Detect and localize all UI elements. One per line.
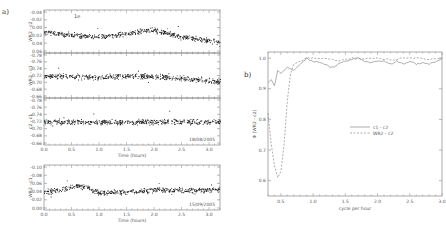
data-points [44,111,221,127]
x-tick-label: 1.0 [95,212,102,217]
coherence-figure: 0.60.70.80.91.00.51.01.52.02.53.0cycle p… [246,0,446,236]
y-tick-label: 0.8 [259,117,266,122]
y-axis-label: WR2 - c1 [28,177,33,197]
series-line-1 [268,58,442,178]
y-tick-label: -0.68 [30,133,42,138]
y-tick-label: -0.66 [30,141,42,146]
x-tick-label: 1.5 [123,147,130,152]
coherence-plot: 0.60.70.80.91.00.51.01.52.02.53.0cycle p… [252,52,446,211]
x-tick-label: 0.0 [40,212,47,217]
x-axis-label: Time (hours) [117,153,147,158]
series-line-0 [268,57,442,85]
panel-annotation: 1e [74,13,80,19]
x-tick-label: 2.5 [406,199,413,204]
x-tick-label: 1.0 [310,199,317,204]
x-tick-label: 2.5 [178,147,185,152]
y-tick-label: -0.10 [30,165,42,170]
y-tick-label: -0.76 [30,105,42,110]
x-tick-label: 2.0 [374,199,381,204]
y-tick-label: -0.76 [30,59,42,64]
y-tick-label: 1.0 [259,56,266,61]
y-axis-label: WR2 - c2 [28,21,33,41]
y-axis-label: Φ (WR2 - c2) [252,109,257,138]
x-tick-label: 3.0 [205,147,212,152]
y-tick-label: 0.04 [32,41,42,46]
legend-label: WR2 - c2 [373,131,393,136]
legend-label: c1 - c2 [373,125,388,130]
y-axis-label: WR2 - c1 [28,65,33,85]
y-tick-label: -0.04 [30,10,42,15]
x-tick-label: 2.5 [178,212,185,217]
data-points [44,26,220,47]
data-points [44,68,221,85]
x-tick-label: 2.0 [150,212,157,217]
x-tick-label: 3.0 [438,199,445,204]
x-tick-label: 0.0 [40,147,47,152]
x-axis-label: Time (hours) [117,218,147,223]
y-tick-label: -0.08 [30,173,42,178]
x-tick-label: 0.5 [68,147,75,152]
y-tick-label: 0.7 [259,148,266,153]
time-series-figure: -0.04-0.020.000.020.040.06WR2 - c21e-0.7… [0,0,240,236]
scatter-panel-a4: -0.10-0.08-0.06-0.04-0.020.00WR2 - c115/… [28,165,220,224]
x-tick-label: 1.0 [95,147,102,152]
x-axis-label: cycle per hour [339,206,371,211]
x-tick-label: 2.0 [150,147,157,152]
x-tick-label: 1.5 [342,199,349,204]
y-tick-label: 0.00 [32,25,42,30]
y-tick-label: -0.78 [30,53,42,58]
scatter-panel-a2: -0.78-0.76-0.74-0.72-0.70-0.68-0.66WR2 -… [28,53,221,99]
x-tick-label: 1.5 [123,212,130,217]
y-axis-label: c2 - c1 [28,114,33,129]
x-tick-label: 0.5 [277,199,284,204]
data-points [44,180,220,197]
x-tick-label: 3.0 [205,212,212,217]
scatter-panel-a3: -0.78-0.76-0.74-0.72-0.70-0.68-0.66c2 - … [28,98,221,159]
y-tick-label: -0.68 [30,87,42,92]
y-tick-label: -0.78 [30,98,42,103]
date-annotation: 18/08/2005 [189,137,215,142]
x-tick-label: 0.5 [68,212,75,217]
y-tick-label: 0.6 [259,178,266,183]
date-annotation: 15/09/2005 [189,202,215,207]
y-tick-label: 0.00 [32,206,42,211]
y-tick-label: 0.9 [259,86,266,91]
scatter-panel-a1: -0.04-0.020.000.020.040.06WR2 - c21e [28,10,220,54]
y-tick-label: 0.02 [32,33,42,38]
